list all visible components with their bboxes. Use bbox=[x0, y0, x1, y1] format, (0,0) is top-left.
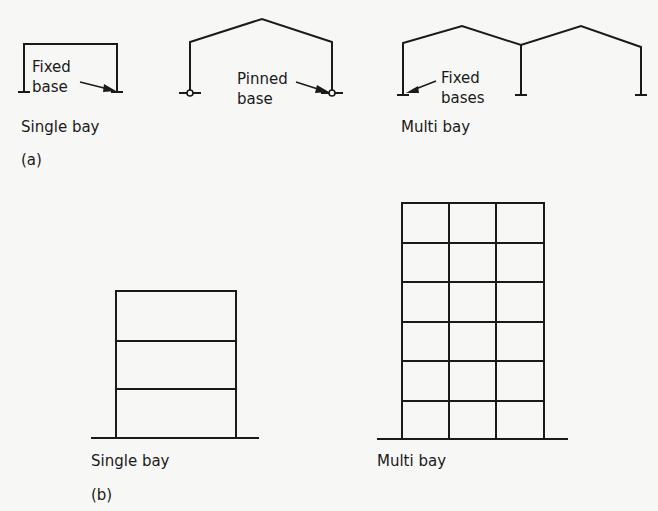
frame-a-single-bay-pinned: Pinned base bbox=[180, 19, 342, 108]
annotation-pinned: Pinned bbox=[237, 70, 288, 88]
frame-b-multi-bay: Multi bay bbox=[377, 203, 567, 470]
part-label-b: (b) bbox=[91, 486, 112, 504]
pin-left-icon bbox=[187, 90, 193, 96]
annotation-fixed: Fixed bbox=[32, 58, 71, 76]
arrowhead-icon bbox=[315, 85, 329, 93]
annotation-bases: bases bbox=[441, 89, 485, 107]
frame-b-single-bay: Single bay (b) bbox=[91, 291, 258, 504]
arrowhead-icon bbox=[103, 84, 116, 92]
structural-frames-diagram: Fixed base Single bay (a) Pinned base Fi… bbox=[0, 0, 658, 511]
frame-outline bbox=[116, 291, 236, 438]
caption-single-bay-b: Single bay bbox=[91, 452, 170, 470]
annotation-fixed: Fixed bbox=[441, 69, 480, 87]
annotation-base: base bbox=[237, 90, 273, 108]
caption-single-bay-a: Single bay bbox=[21, 118, 100, 136]
annotation-base: base bbox=[32, 78, 68, 96]
frame-a-single-bay-fixed: Fixed base Single bay (a) bbox=[19, 44, 122, 169]
part-label-a: (a) bbox=[21, 151, 42, 169]
caption-multi-bay-a: Multi bay bbox=[401, 118, 470, 136]
pin-right-icon bbox=[329, 90, 335, 96]
arrowhead-icon bbox=[406, 86, 419, 93]
frame-a-multi-bay: Fixed bases Multi bay bbox=[398, 26, 646, 136]
caption-multi-bay-b: Multi bay bbox=[377, 452, 446, 470]
